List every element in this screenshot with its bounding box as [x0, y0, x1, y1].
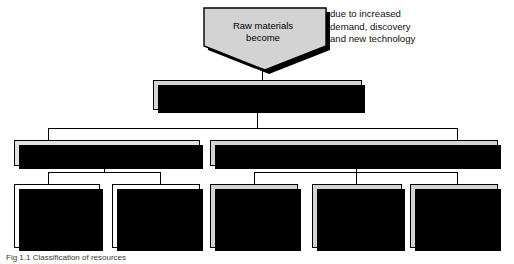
renewable-label: Renewable [15, 148, 199, 160]
connector-to-scenic [254, 172, 255, 184]
connector-to-organic [48, 172, 49, 184]
leaf-text-scenic: Scenic eg: unspoilt fjord landscape [218, 197, 293, 243]
leaf-text-inorganic: Inorganic eg: water, wind, solar energy [120, 197, 195, 243]
non-renewable-box: Non-renewable [210, 140, 498, 166]
connector-to-non-renewable [457, 128, 458, 140]
natural-resources-box: Natural resources [153, 80, 362, 110]
leaf-box-inorganic: Inorganic eg: water, wind, solar energy [112, 184, 200, 248]
leaf-box-organic: Organic eg: timber, crops, fish, livesto… [14, 184, 100, 248]
pentagon-shape [200, 6, 330, 74]
figure-caption: Fig 1.1 Classification of resources [6, 253, 126, 263]
leaf-text-organic: Organic eg: timber, crops, fish, livesto… [22, 191, 95, 248]
side-note-text: due to increased demand, discovery and n… [330, 8, 505, 46]
leaf-box-fossil-fuels: Fossil fuels eg: coal, oil, natural gas [312, 184, 402, 248]
raw-materials-node: Raw materials become [200, 6, 326, 70]
leaf-box-metal-ores: Metal ores eg: iron, copper, bauxite [410, 184, 498, 248]
natural-resources-label: Natural resources [154, 90, 361, 102]
connector-to-fossil-fuels [356, 172, 357, 184]
connector-renewable-bus [48, 172, 160, 173]
connector-level3-bus [48, 128, 458, 129]
non-renewable-label: Non-renewable [211, 148, 497, 160]
connector-to-inorganic [160, 172, 161, 184]
renewable-box: Renewable [14, 140, 200, 166]
connector-to-renewable [48, 128, 49, 140]
leaf-text-fossil-fuels: Fossil fuels eg: coal, oil, natural gas [320, 204, 397, 238]
resource-classification-diagram: Raw materials become due to increased de… [0, 0, 514, 264]
leaf-text-metal-ores: Metal ores eg: iron, copper, bauxite [418, 197, 493, 243]
leaf-box-scenic: Scenic eg: unspoilt fjord landscape [210, 184, 298, 248]
connector-to-metal-ores [457, 172, 458, 184]
